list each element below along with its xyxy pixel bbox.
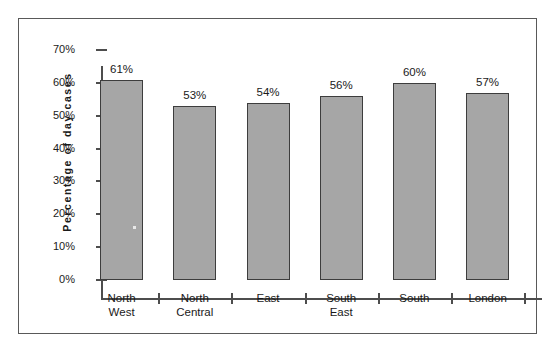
bar xyxy=(393,83,436,280)
bar xyxy=(173,106,216,280)
bar-value-label: 61% xyxy=(92,63,152,75)
y-axis-tick-label: 50% xyxy=(33,110,75,121)
x-axis-category-label-line: South xyxy=(374,291,454,305)
x-axis-category-label: East xyxy=(228,291,308,305)
x-axis-category-label: NorthCentral xyxy=(155,291,235,319)
x-axis-category-label-line: West xyxy=(82,305,162,319)
bar-value-label: 56% xyxy=(311,79,371,91)
x-axis-category-label-line: North xyxy=(82,291,162,305)
y-axis-tick-label: 20% xyxy=(33,208,75,219)
x-axis-category-label: NorthWest xyxy=(82,291,162,319)
x-axis-category-label: South xyxy=(374,291,454,305)
x-axis-category-label-line: London xyxy=(448,291,528,305)
bar-value-label: 53% xyxy=(165,89,225,101)
bar-value-label: 57% xyxy=(458,76,518,88)
bar xyxy=(466,93,509,280)
x-axis-category-label: London xyxy=(448,291,528,305)
bar-value-label: 54% xyxy=(238,86,298,98)
x-axis-category-label-line: North xyxy=(155,291,235,305)
y-axis-tick-label: 70% xyxy=(33,44,75,55)
x-axis-category-label-line: Central xyxy=(155,305,235,319)
x-axis-category-label-line: East xyxy=(228,291,308,305)
bar xyxy=(247,103,290,280)
chart-frame: Percentage of day cases 0%10%20%30%40%50… xyxy=(18,18,537,334)
y-axis-tick-label: 60% xyxy=(33,77,75,88)
scan-artifact-speck xyxy=(133,226,136,229)
bar xyxy=(320,96,363,280)
y-axis-tick-label: 30% xyxy=(33,175,75,186)
x-axis-category-label-line: South xyxy=(301,291,381,305)
x-axis-category-label-line: East xyxy=(301,305,381,319)
bar xyxy=(100,80,143,280)
y-axis-tick-label: 40% xyxy=(33,143,75,154)
bar-value-label: 60% xyxy=(384,66,444,78)
x-axis-category-label: SouthEast xyxy=(301,291,381,319)
y-axis-tick-label: 0% xyxy=(33,274,75,285)
y-axis-tick-label: 10% xyxy=(33,241,75,252)
y-axis-tick xyxy=(96,49,107,51)
